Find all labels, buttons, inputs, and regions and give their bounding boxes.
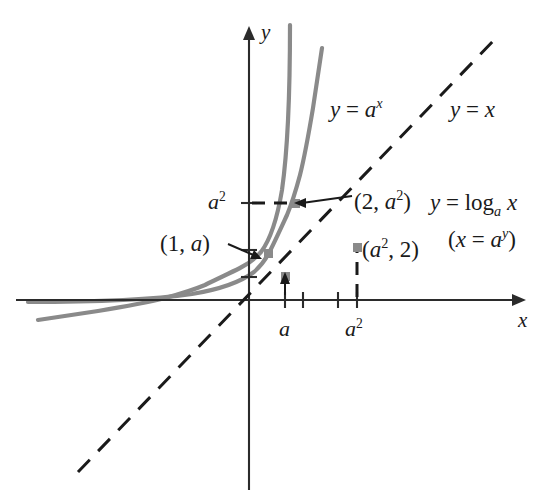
point-asq-open-paren: (	[362, 237, 370, 262]
x-tick-label-a-squared: a2	[345, 318, 363, 340]
point-marker-one-a	[264, 249, 273, 258]
point-one-x: 1	[168, 231, 180, 256]
identity-line-label: y = x	[450, 98, 495, 121]
exponential-curve	[28, 48, 322, 302]
exponential-curve-label: y = ax	[330, 98, 383, 121]
exponential-label-base: a	[365, 97, 377, 122]
exponential-label-eq: =	[340, 97, 364, 122]
x-axis-label: x	[518, 310, 527, 331]
logarithm-alt-close-paren: )	[508, 227, 516, 252]
point-asq-close-paren: )	[411, 237, 419, 262]
point-two-sep: ,	[373, 189, 385, 214]
point-one-sep: ,	[179, 231, 191, 256]
point-asq-sep: ,	[388, 237, 400, 262]
point-one-y: a	[191, 231, 203, 256]
point-asq-y: 2	[400, 237, 412, 262]
logarithm-label-fn: log	[465, 190, 494, 215]
leader-arrow-two-a-squared	[294, 196, 352, 208]
y-tick-a: a	[208, 189, 219, 214]
logarithm-alt-open-paren: (	[448, 227, 456, 252]
exponential-label-exponent: x	[376, 95, 382, 111]
logarithm-label-argument: x	[507, 190, 517, 215]
point-two-close-paren: )	[403, 189, 411, 214]
y-tick-label-a-squared: a2	[208, 191, 226, 213]
x-axis-arrowhead	[512, 294, 526, 306]
x-tick-asq-exponent: 2	[356, 316, 363, 331]
point-two-x: 2	[362, 189, 374, 214]
exponential-logarithm-figure: y x y = ax y = x y = loga x (x = ay) (2,…	[0, 0, 547, 503]
point-label-one-a: (1, a)	[160, 232, 210, 255]
logarithm-label-eq: =	[440, 190, 464, 215]
exponential-label-lhs: y	[330, 97, 340, 122]
logarithm-alt-lhs: x	[456, 227, 466, 252]
point-marker-a-squared-two	[353, 243, 362, 252]
point-label-a-squared-two: (a2, 2)	[362, 238, 419, 261]
logarithm-curve-label: y = loga x	[430, 191, 517, 214]
logarithm-alt-base: a	[490, 227, 502, 252]
logarithm-alt-eq: =	[466, 227, 490, 252]
identity-label-eq: =	[460, 97, 484, 122]
point-one-open-paren: (	[160, 231, 168, 256]
identity-label-lhs: y	[450, 97, 460, 122]
leader-arrow-one-a	[228, 244, 262, 259]
x-tick-a: a	[279, 316, 290, 341]
x-tick-asq: a	[345, 316, 356, 341]
y-tick-a-exponent: 2	[219, 189, 226, 204]
point-one-close-paren: )	[202, 231, 210, 256]
point-two-y: a	[385, 189, 397, 214]
y-axis-arrowhead	[243, 26, 255, 40]
point-label-two-a-squared: (2, a2)	[354, 190, 411, 213]
point-two-open-paren: (	[354, 189, 362, 214]
x-tick-label-a: a	[279, 318, 290, 340]
identity-label-rhs: x	[485, 97, 495, 122]
logarithm-label-lhs: y	[430, 190, 440, 215]
y-axis-label: y	[261, 22, 270, 43]
point-asq-x: a	[370, 237, 382, 262]
logarithm-alt-form-label: (x = ay)	[448, 228, 516, 251]
